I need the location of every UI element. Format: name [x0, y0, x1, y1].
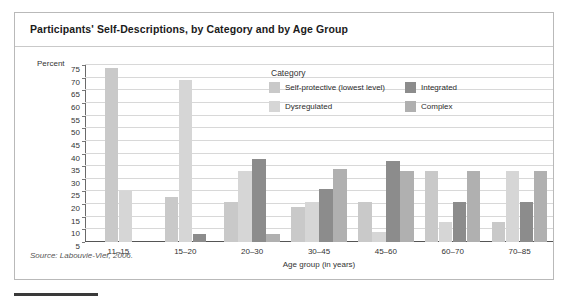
legend-item-label: Complex — [421, 102, 453, 111]
bar — [291, 207, 305, 242]
y-axis-tick-mark — [82, 103, 85, 104]
gridline — [85, 165, 553, 166]
x-axis-tick-label: 30–45 — [308, 247, 330, 256]
legend-item-label: Self-protective (lowest level) — [285, 83, 385, 92]
x-axis-tick-label: 15–20 — [174, 247, 196, 256]
y-axis-tick-mark — [82, 128, 85, 129]
figure-panel: Participants' Self-Descriptions, by Cate… — [14, 12, 554, 280]
bar — [520, 202, 534, 242]
x-axis-tick-label: 45–60 — [375, 247, 397, 256]
bar — [386, 161, 400, 242]
legend-item: Complex — [405, 101, 453, 112]
page-title: Participants' Self-Descriptions, by Cate… — [30, 23, 348, 35]
bar — [165, 197, 179, 243]
legend-swatch-icon — [405, 82, 416, 93]
bar — [506, 171, 520, 242]
x-axis-tick-label: 60–70 — [442, 247, 464, 256]
x-axis-title: Age group (in years) — [85, 260, 553, 269]
bar — [358, 202, 372, 242]
bar — [193, 234, 207, 242]
y-axis-tick-mark — [82, 166, 85, 167]
source-note: Source: Labouvie-Vief, 2006. — [30, 251, 133, 260]
y-axis-tick-mark — [82, 229, 85, 230]
legend-item-label: Integrated — [421, 83, 457, 92]
legend-title: Category — [269, 68, 519, 78]
legend-swatch-icon — [269, 82, 280, 93]
bar — [105, 68, 119, 242]
y-axis-tick-mark — [82, 154, 85, 155]
y-axis-tick-mark — [82, 217, 85, 218]
gridline — [85, 178, 553, 179]
y-axis-tick-mark — [82, 78, 85, 79]
y-axis-tick-mark — [82, 191, 85, 192]
gridline — [85, 64, 553, 65]
gridline — [85, 140, 553, 141]
y-axis-tick-mark — [82, 116, 85, 117]
gridline — [85, 153, 553, 154]
figure-page: Participants' Self-Descriptions, by Cate… — [0, 0, 571, 305]
bar — [453, 202, 467, 242]
legend-swatch-icon — [405, 101, 416, 112]
legend-item-label: Dysregulated — [285, 102, 332, 111]
y-axis-tick-mark — [82, 90, 85, 91]
y-axis-tick-mark — [82, 242, 85, 243]
legend: Category Self-protective (lowest level)I… — [269, 68, 519, 120]
y-axis-title: Percent — [37, 59, 65, 68]
bar — [252, 159, 266, 242]
bar — [534, 171, 548, 242]
bar — [492, 222, 506, 242]
title-divider — [15, 46, 553, 47]
bar — [238, 171, 252, 242]
bar — [333, 169, 347, 242]
y-axis-tick-mark — [82, 179, 85, 180]
x-axis-tick-label: 70–85 — [508, 247, 530, 256]
legend-item: Integrated — [405, 82, 457, 93]
bar — [439, 222, 453, 242]
bottom-rule — [14, 293, 98, 296]
bar — [400, 171, 414, 242]
bar — [372, 232, 386, 242]
legend-item: Self-protective (lowest level) — [269, 82, 385, 93]
gridline — [85, 127, 553, 128]
legend-items: Self-protective (lowest level)Integrated… — [269, 82, 519, 120]
y-axis-tick-mark — [82, 65, 85, 66]
x-axis-tick-label: 20–30 — [241, 247, 263, 256]
legend-item: Dysregulated — [269, 101, 332, 112]
bar — [224, 202, 238, 242]
legend-swatch-icon — [269, 101, 280, 112]
bar — [319, 189, 333, 242]
y-axis-tick-mark — [82, 204, 85, 205]
bar — [179, 80, 193, 242]
bar — [467, 171, 481, 242]
y-axis-tick-mark — [82, 141, 85, 142]
bar — [266, 234, 280, 242]
bar — [305, 202, 319, 242]
bar — [119, 191, 133, 242]
bar — [425, 171, 439, 242]
